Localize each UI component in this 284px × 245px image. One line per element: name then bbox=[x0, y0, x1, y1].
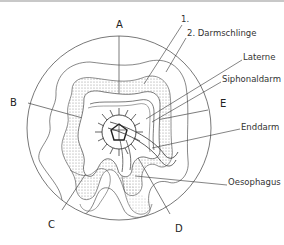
sector-label-d: D bbox=[175, 224, 183, 234]
sector-label-b: B bbox=[10, 98, 17, 108]
label-rectum: Enddarm bbox=[241, 123, 279, 132]
sector-label-c: C bbox=[48, 220, 55, 230]
sector-label-e: E bbox=[220, 99, 226, 109]
label-first-gut-loop: 1. bbox=[181, 15, 189, 24]
label-oesophagus: Oesophagus bbox=[228, 178, 281, 187]
sector-label-a: A bbox=[116, 20, 123, 30]
label-siphonal-gut: Siphonaldarm bbox=[222, 75, 281, 84]
label-lantern: Laterne bbox=[243, 53, 275, 62]
label-second-gut-loop: 2. Darmschlinge bbox=[187, 29, 256, 38]
